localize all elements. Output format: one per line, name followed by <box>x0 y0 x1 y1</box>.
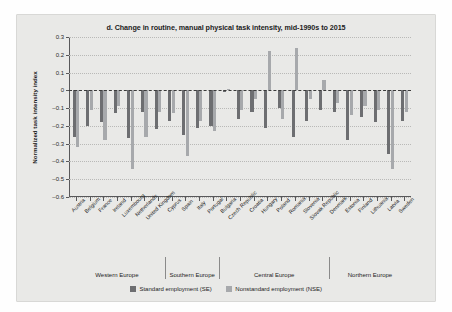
bar-nse <box>240 90 243 110</box>
bar-group <box>137 37 151 197</box>
x-label-slot: Portugal <box>206 203 220 255</box>
x-label-slot: Slovak Republic <box>315 203 329 255</box>
chart-panel: d. Change in routine, manual physical ta… <box>16 14 436 302</box>
x-tick-mark <box>363 197 364 201</box>
plot-area: 0.30.20.10–0.1–0.2–0.3–0.4–0.5–0.6 <box>69 37 411 197</box>
x-tick-mark <box>295 197 296 201</box>
legend-item[interactable]: Nonstandard employment (NSE) <box>226 286 322 292</box>
bar-nse <box>350 90 353 115</box>
bar-group <box>96 37 110 197</box>
bar-se <box>264 90 267 127</box>
x-axis-label: Sweden <box>397 196 415 214</box>
x-label-slot: Estonia <box>343 203 357 255</box>
x-tick-mark <box>103 197 104 201</box>
bar-nse <box>131 90 134 168</box>
bar-group <box>206 37 220 197</box>
figure-container: d. Change in routine, manual physical ta… <box>0 0 452 312</box>
bar-nse <box>76 90 79 147</box>
bar-nse <box>405 90 408 111</box>
bar-nse <box>117 90 120 106</box>
x-tick-mark <box>131 197 132 201</box>
x-label-slot: Czech Republic <box>233 203 247 255</box>
x-tick-mark <box>322 197 323 201</box>
bar-group <box>329 37 343 197</box>
x-label-slot: Sweden <box>398 203 412 255</box>
x-tick-mark <box>213 197 214 201</box>
bar-group <box>343 37 357 197</box>
bar-nse <box>281 90 284 118</box>
x-label-slot: Latvia <box>384 203 398 255</box>
x-label-slot: Denmark <box>329 203 343 255</box>
legend-label: Nonstandard employment (NSE) <box>235 286 322 292</box>
bar-nse <box>172 90 175 113</box>
chart-legend: Standard employment (SE)Nonstandard empl… <box>17 286 435 292</box>
region-group-labels: Western EuropeSouthern EuropeCentral Eur… <box>69 259 411 279</box>
bar-nse <box>254 90 257 99</box>
y-tick-label: 0.2 <box>56 52 64 58</box>
x-label-slot: Poland <box>274 203 288 255</box>
bar-group <box>233 37 247 197</box>
x-label-slot: Hungary <box>261 203 275 255</box>
x-tick-mark <box>309 197 310 201</box>
x-tick-mark <box>336 197 337 201</box>
y-tick-label: 0 <box>61 87 64 93</box>
region-group: Southern Europe <box>165 259 220 279</box>
bar-group <box>110 37 124 197</box>
x-tick-mark <box>199 197 200 201</box>
x-axis-labels: AustriaBelgiumFranceIrelandLuxembourgNet… <box>69 203 411 255</box>
bar-nse <box>309 90 312 99</box>
x-tick-mark <box>144 197 145 201</box>
region-group-label: Southern Europe <box>169 272 214 278</box>
y-tick-label: –0.1 <box>52 105 64 111</box>
x-label-slot: Croatia <box>247 203 261 255</box>
x-tick-mark <box>90 197 91 201</box>
x-label-slot: France <box>96 203 110 255</box>
bar-group <box>288 37 302 197</box>
x-label-slot: Cyprus <box>165 203 179 255</box>
x-label-slot: Belgium <box>83 203 97 255</box>
x-tick-mark <box>240 197 241 201</box>
bar-nse <box>336 90 339 102</box>
y-tick-mark <box>66 197 69 198</box>
y-axis-title: Normalized task intensity index <box>29 37 39 197</box>
y-tick-label: 0.3 <box>56 34 64 40</box>
x-tick-mark <box>117 197 118 201</box>
x-label-slot: Austria <box>69 203 83 255</box>
bar-series-group <box>69 37 411 197</box>
bar-nse <box>144 90 147 136</box>
x-tick-mark <box>172 197 173 201</box>
bar-group <box>384 37 398 197</box>
bar-group <box>83 37 97 197</box>
bar-nse <box>295 48 298 91</box>
bar-nse <box>268 51 271 90</box>
x-tick-mark <box>76 197 77 201</box>
x-tick-mark <box>350 197 351 201</box>
region-group: Western Europe <box>69 259 165 279</box>
bar-group <box>69 37 83 197</box>
y-tick-label: 0.1 <box>56 70 64 76</box>
x-tick-mark <box>254 197 255 201</box>
bar-nse <box>391 90 394 168</box>
x-tick-mark <box>377 197 378 201</box>
region-group: Northern Europe <box>329 259 411 279</box>
x-tick-mark <box>281 197 282 201</box>
y-tick-label: –0.6 <box>52 194 64 200</box>
x-tick-mark <box>391 197 392 201</box>
bar-nse <box>90 90 93 110</box>
bar-nse <box>213 90 216 131</box>
region-group-label: Northern Europe <box>348 272 392 278</box>
legend-item[interactable]: Standard employment (SE) <box>130 286 212 292</box>
chart-title: d. Change in routine, manual physical ta… <box>17 23 435 32</box>
x-tick-mark <box>226 197 227 201</box>
y-tick-label: –0.2 <box>52 123 64 129</box>
region-group: Central Europe <box>219 259 328 279</box>
x-tick-mark <box>404 197 405 201</box>
y-tick-label: –0.5 <box>52 176 64 182</box>
bar-nse <box>322 80 325 91</box>
bar-group <box>302 37 316 197</box>
bar-nse <box>103 90 106 140</box>
x-tick-mark <box>267 197 268 201</box>
bar-group <box>192 37 206 197</box>
x-label-slot: United Kingdom <box>151 203 165 255</box>
bar-nse <box>363 90 366 106</box>
